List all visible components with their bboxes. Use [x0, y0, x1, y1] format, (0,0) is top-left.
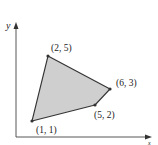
vertex-point	[30, 119, 33, 122]
vertex-point	[46, 54, 49, 57]
x-axis-label: x	[147, 140, 151, 145]
y-axis-arrow-icon	[14, 22, 19, 29]
vertex-label: (5, 2)	[94, 110, 115, 121]
x-axis-arrow-icon	[145, 135, 152, 140]
vertex-label: (6, 3)	[116, 78, 137, 89]
diagram-canvas: y x (1, 1) (5, 2) (6, 3) (2, 5)	[0, 0, 158, 145]
vertex-label: (2, 5)	[51, 43, 72, 54]
vertex-point	[108, 87, 111, 90]
vertex-point	[93, 103, 96, 106]
vertex-label: (1, 1)	[36, 125, 57, 136]
y-axis-label: y	[5, 20, 11, 31]
